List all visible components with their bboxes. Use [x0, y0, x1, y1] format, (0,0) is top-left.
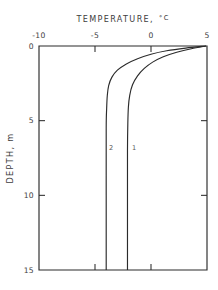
- y-tick-label-0: 0: [29, 42, 34, 51]
- x-tick-label-2: 0: [148, 31, 153, 40]
- x-tick-label-1: -5: [91, 31, 99, 40]
- tick-mark-group: [39, 46, 207, 270]
- curve-label-1: 1: [132, 144, 136, 152]
- data-curve-group: [106, 46, 206, 270]
- x-axis-unit: °C: [159, 14, 170, 22]
- curve-label-2: 2: [109, 144, 113, 152]
- x-tick-label-0: -10: [32, 31, 45, 40]
- y-tick-label-3: 15: [24, 266, 34, 275]
- data-curve-1: [127, 46, 205, 270]
- x-tick-label-3: 5: [204, 31, 209, 40]
- x-tick-label-group: -10-505: [32, 31, 209, 40]
- curve-label-group: 12: [109, 144, 136, 152]
- y-tick-label-2: 10: [24, 191, 34, 200]
- chart-canvas: TEMPERATURE,°C -10-505 DEPTH, m 051015 1…: [0, 0, 218, 290]
- y-tick-label-1: 5: [29, 116, 34, 125]
- y-axis-title: DEPTH, m: [5, 132, 15, 183]
- x-axis-title-text: TEMPERATURE,: [75, 14, 154, 24]
- plot-frame: [39, 46, 207, 270]
- x-axis-title: TEMPERATURE,°C: [75, 14, 169, 24]
- temperature-depth-chart: TEMPERATURE,°C -10-505 DEPTH, m 051015 1…: [0, 0, 218, 290]
- y-tick-label-group: 051015: [24, 42, 34, 275]
- data-curve-2: [106, 46, 206, 270]
